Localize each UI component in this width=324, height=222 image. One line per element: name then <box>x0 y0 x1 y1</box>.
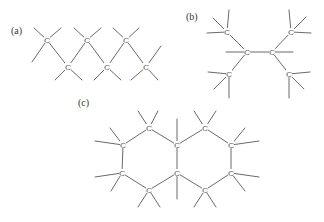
carbon-atom-label: C <box>288 28 294 37</box>
bond-line <box>95 173 122 177</box>
carbon-atom-label: C <box>119 169 125 178</box>
carbon-atom-label: C <box>174 169 180 178</box>
panel-b-atoms: CCCCCC <box>224 28 294 79</box>
panel-a-bonds <box>32 28 161 80</box>
bond-line <box>289 72 310 74</box>
bond-line <box>149 128 177 145</box>
carbon-atom-label: C <box>44 36 50 45</box>
panel-a-linear-chain: (a) CCCCCC <box>11 25 161 80</box>
panel-b-bonds <box>207 10 311 98</box>
carbon-atom-label: C <box>228 141 234 150</box>
panel-a-atoms: CCCCCC <box>44 36 149 72</box>
panel-b-label: (b) <box>186 11 198 23</box>
bond-line <box>95 141 123 145</box>
carbon-atom-label: C <box>123 36 129 45</box>
carbon-atom-label: C <box>84 36 90 45</box>
carbon-skeleton-diagram: (a) CCCCCC (b) CCCCCC (c) CCCCCCCCCC <box>0 0 324 222</box>
carbon-atom-label: C <box>202 124 208 133</box>
panel-c-label: (c) <box>78 97 89 109</box>
carbon-atom-label: C <box>244 48 250 57</box>
carbon-atom-label: C <box>228 169 234 178</box>
bond-line <box>231 141 259 145</box>
bond-line <box>177 173 205 190</box>
carbon-atom-label: C <box>202 186 208 195</box>
carbon-atom-label: C <box>269 48 275 57</box>
panel-c-fused-rings: (c) CCCCCCCCCC <box>78 97 259 207</box>
bond-line <box>122 173 149 190</box>
panel-c-bonds <box>95 111 259 207</box>
carbon-atom-label: C <box>286 70 292 79</box>
carbon-atom-label: C <box>174 141 180 150</box>
carbon-atom-label: C <box>224 28 230 37</box>
panel-b-branched-chain: (b) CCCCCC <box>186 10 311 98</box>
bond-line <box>177 128 205 145</box>
carbon-atom-label: C <box>146 124 152 133</box>
panel-a-label: (a) <box>11 25 22 37</box>
bond-line <box>231 173 259 177</box>
carbon-atom-label: C <box>226 70 232 79</box>
bond-line <box>149 173 177 190</box>
carbon-atom-label: C <box>143 63 149 72</box>
carbon-atom-label: C <box>120 141 126 150</box>
carbon-atom-label: C <box>146 186 152 195</box>
carbon-atom-label: C <box>65 63 71 72</box>
carbon-atom-label: C <box>104 63 110 72</box>
